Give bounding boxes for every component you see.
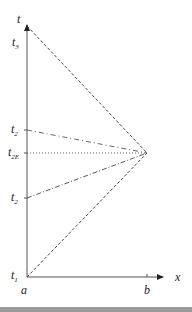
t2-lower-label: t2 bbox=[11, 190, 18, 206]
t3-label: t3 bbox=[12, 35, 19, 51]
t1-label: t1 bbox=[11, 268, 18, 284]
t2-upper-label: t2 bbox=[11, 122, 18, 138]
x-axis-label: x bbox=[174, 270, 181, 284]
a-label: a bbox=[21, 283, 27, 297]
line-t3 bbox=[27, 26, 147, 153]
line-t1 bbox=[27, 153, 147, 277]
b-label: b bbox=[144, 283, 150, 297]
bottom-bar bbox=[0, 307, 192, 312]
line-t2-upper bbox=[27, 130, 147, 153]
t2e-label: t2E bbox=[8, 145, 20, 161]
spacetime-diagram: t x t3 t2 t2E t2 t1 a b bbox=[0, 0, 192, 312]
t-axis-label: t bbox=[17, 12, 21, 26]
line-t2-lower bbox=[27, 153, 147, 198]
